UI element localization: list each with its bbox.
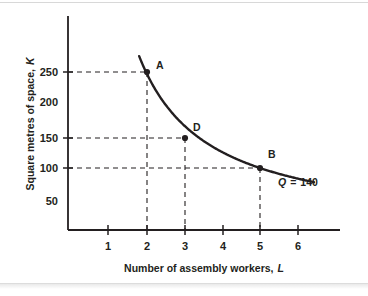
y-axis-title-text: Square metres of space,	[24, 69, 36, 190]
x-tick-label-1: 1	[105, 240, 111, 252]
data-point-label-a: A	[156, 59, 164, 71]
figure-card: 250 200 150 100 50 1 2 3 4 5 6 A D B	[0, 0, 368, 296]
x-axis-title: Number of assembly workers,L	[124, 262, 284, 274]
x-tick-label-3: 3	[182, 240, 188, 252]
data-point-label-d: D	[193, 121, 201, 133]
data-point-labels: A D B	[156, 59, 276, 160]
isoquant-value: 140	[300, 176, 318, 188]
y-tick-label-150: 150	[40, 132, 58, 144]
data-point-b[interactable]	[257, 165, 263, 171]
isoquant-equals: =	[290, 176, 296, 188]
axes	[68, 16, 340, 230]
y-tick-label-200: 200	[40, 96, 58, 108]
isoquant-symbol: Q	[278, 176, 286, 188]
x-tick-label-6: 6	[295, 240, 301, 252]
x-tick-label-5: 5	[257, 240, 263, 252]
x-axis-tick-labels: 1 2 3 4 5 6	[105, 240, 301, 252]
y-tick-label-100: 100	[40, 162, 58, 174]
isoquant-chart: 250 200 150 100 50 1 2 3 4 5 6 A D B	[0, 0, 368, 296]
data-point-d[interactable]	[182, 135, 188, 141]
data-points	[144, 69, 263, 171]
y-axis-title-variable: K	[24, 56, 36, 65]
y-axis-title: Square metres of space,K	[24, 56, 36, 190]
y-tick-label-50: 50	[46, 195, 58, 207]
x-tick-label-4: 4	[220, 240, 227, 252]
guide-lines	[68, 72, 260, 230]
isoquant-curve	[139, 56, 314, 182]
x-axis-title-variable: L	[277, 262, 283, 274]
x-axis-title-text: Number of assembly workers,	[124, 262, 273, 274]
card-shadow	[0, 284, 368, 289]
data-point-label-b: B	[268, 148, 276, 160]
y-axis-tick-labels: 250 200 150 100 50	[40, 66, 58, 207]
x-tick-label-2: 2	[144, 240, 150, 252]
y-tick-label-250: 250	[40, 66, 58, 78]
data-point-a[interactable]	[144, 69, 150, 75]
